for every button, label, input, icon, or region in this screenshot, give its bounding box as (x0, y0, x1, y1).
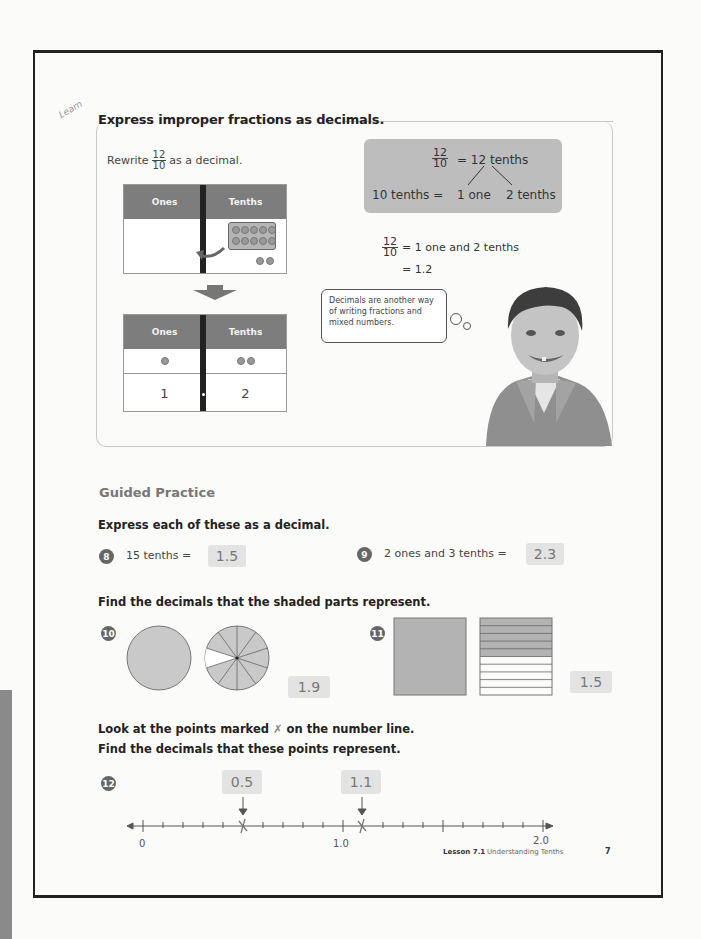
learn-panel-top-border (345, 121, 613, 122)
number-line-label-2: 2.0 (533, 835, 549, 846)
q9-answer[interactable]: 2.3 (526, 543, 564, 565)
q8-text: 15 tenths = (126, 549, 191, 562)
two-tenths: 2 tenths (506, 188, 556, 202)
instruction-part-a: Look at the points marked (98, 722, 269, 736)
thought-bubble: Decimals are another way of writing frac… (321, 289, 447, 343)
digit-tenths: 2 (205, 374, 286, 412)
instruction-find-points: Find the decimals that these points repr… (98, 742, 401, 756)
extra-tenth-counters (256, 257, 274, 265)
instruction-express: Express each of these as a decimal. (98, 518, 330, 532)
q8-answer[interactable]: 1.5 (208, 545, 246, 567)
learn-title: Express improper fractions as decimals. (98, 112, 384, 127)
denominator: 10 (433, 159, 447, 169)
question-badge-12: 12 (101, 776, 116, 791)
header-ones: Ones (124, 185, 205, 219)
rewrite-prompt: Rewrite 12 10 as a decimal. (107, 150, 242, 171)
counter (256, 257, 264, 265)
x-mark-icon: ✗ (273, 722, 283, 736)
rewrite-suffix: as a decimal. (169, 154, 242, 167)
branch-lines (462, 165, 522, 187)
question-badge-8: 8 (99, 549, 114, 564)
fraction-12-10: 12 10 (382, 237, 398, 258)
q11-squares (393, 617, 553, 697)
header-tenths: Tenths (205, 185, 286, 219)
number-line-label-1: 1.0 (333, 838, 349, 849)
footer-lesson: Lesson 7.1 (443, 848, 485, 856)
instruction-shaded: Find the decimals that the shaded parts … (98, 595, 430, 609)
rewrite-prefix: Rewrite (107, 154, 149, 167)
q10-answer[interactable]: 1.9 (288, 676, 330, 698)
thought-dot-large (450, 313, 462, 325)
header-ones: Ones (124, 315, 205, 349)
decimal-point (202, 393, 205, 396)
ten-tenths-equals: 10 tenths = (372, 188, 443, 202)
footer-title: Understanding Tenths (487, 848, 563, 856)
place-value-table-bottom: Ones Tenths 1 2 (123, 314, 287, 412)
regroup-arrow-icon (192, 244, 228, 268)
page-edge-strip (0, 690, 12, 939)
question-badge-9: 9 (357, 547, 372, 562)
denominator: 10 (383, 248, 397, 258)
page-number: 7 (605, 847, 611, 856)
question-badge-11: 11 (370, 626, 385, 641)
header-tenths: Tenths (205, 315, 286, 349)
q12-answer-1[interactable]: 0.5 (222, 770, 262, 794)
fraction-12-10: 12 10 (152, 150, 167, 171)
equation-line-2: = 1.2 (402, 263, 432, 276)
q10-circles (126, 623, 286, 695)
counter (266, 257, 274, 265)
q9-text: 2 ones and 3 tenths = (384, 547, 507, 560)
thought-dot-small (463, 322, 471, 330)
decimal-divider (200, 315, 206, 411)
denominator: 10 (153, 161, 166, 171)
instruction-number-line: Look at the points marked ✗ on the numbe… (98, 722, 414, 736)
digit-ones: 1 (124, 374, 205, 412)
guided-practice-title: Guided Practice (99, 485, 215, 500)
one-one: 1 one (457, 188, 491, 202)
ten-counters-frame (228, 222, 276, 250)
q11-answer[interactable]: 1.5 (570, 671, 612, 693)
instruction-part-b: on the number line. (287, 722, 415, 736)
number-line (125, 795, 555, 835)
student-photo (476, 283, 612, 446)
down-arrow-icon (193, 285, 237, 301)
q12-answer-2[interactable]: 1.1 (341, 770, 381, 794)
number-line-label-0: 0 (139, 838, 145, 849)
question-badge-10: 10 (101, 626, 116, 641)
equation-line-1: = 1 one and 2 tenths (402, 241, 519, 254)
fraction-12-10: 12 10 (432, 148, 448, 169)
